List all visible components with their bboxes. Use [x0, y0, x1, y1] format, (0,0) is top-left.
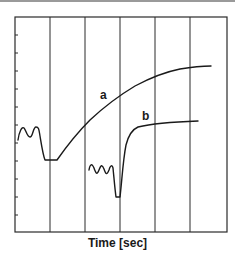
- curve-b: [89, 121, 198, 197]
- chart-plot: a b: [0, 0, 235, 258]
- x-axis-label: Time [sec]: [0, 236, 235, 250]
- plot-frame: [15, 17, 227, 232]
- vertical-gridlines: [50, 17, 190, 232]
- series-b-label: b: [142, 109, 149, 123]
- curve-a: [18, 66, 211, 160]
- series-a-label: a: [100, 88, 107, 102]
